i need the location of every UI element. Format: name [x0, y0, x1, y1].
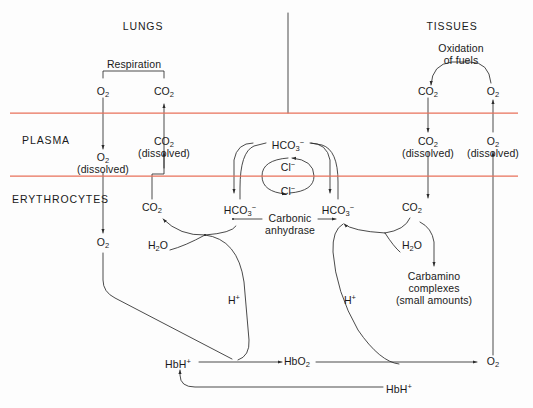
path-junction-to-co2-tissue: [385, 218, 410, 233]
species-co2-tissues: CO2: [418, 86, 438, 101]
arrow-hbh-return-to-left: [180, 370, 383, 387]
species-co2-erythrocyte-tissues: CO2: [402, 202, 422, 217]
respiration-bracket: [103, 71, 164, 78]
arrow-junction-to-co2-lung: [163, 219, 205, 235]
compartment-label-erythrocytes: ERYTHROCYTES: [12, 194, 109, 206]
arrow-hco3-erythrocyte-to-plasma-tissue: [310, 143, 330, 193]
species-hbh-left: HbH+: [165, 356, 191, 371]
path-hco3-tissue-riser: [311, 143, 338, 199]
species-co2-erythrocyte-lungs: CO2: [142, 202, 162, 217]
species-cl-upper: Cl−: [281, 159, 296, 174]
carbamino-label-line3: (small amounts): [396, 294, 472, 306]
species-co2-alveolar-lungs: CO2: [154, 86, 174, 101]
species-hco3-erythrocyte-lungs: HCO3−: [224, 202, 256, 220]
process-label-respiration: Respiration: [107, 59, 161, 71]
compartment-label-lungs: LUNGS: [123, 21, 164, 33]
species-hbh-right: HbH+: [386, 381, 412, 396]
species-cl-lower: Cl−: [281, 183, 296, 198]
path-o2-to-hemoglobin-lung: [103, 253, 232, 359]
process-label-oxidation-line1: Oxidation: [438, 43, 483, 55]
dissolved-label-co2-plasma-tissues: (dissolved): [402, 148, 454, 160]
path-hco3-plasma-to-erythrocyte-lung-a: [240, 143, 266, 199]
arrow-hco3-plasma-into-erythrocyte: [234, 143, 253, 193]
co2-base: CO: [154, 85, 170, 97]
path-junction-to-h2o-tissue: [385, 233, 400, 252]
dissolved-label-co2-plasma-lungs: (dissolved): [138, 148, 190, 160]
path-hco3-into-junction-lung: [205, 226, 236, 235]
co2-sub: 2: [170, 90, 174, 99]
dissolved-label-o2-plasma-lungs: (dissolved): [77, 164, 129, 176]
enzyme-label-carbonic-anhydrase-line2: anhydrase: [265, 225, 315, 237]
species-o2-tissues: O2: [487, 86, 500, 101]
compartment-label-tissues: TISSUES: [426, 21, 477, 33]
species-o2-erythrocyte-tissues: O2: [487, 356, 500, 371]
species-hco3-plasma: HCO3−: [272, 137, 304, 155]
compartment-label-plasma: PLASMA: [22, 135, 70, 147]
carbamino-label-line1: Carbamino: [408, 270, 460, 282]
gas-transport-diagram: LUNGS TISSUES PLASMA ERYTHROCYTES Respir…: [0, 0, 533, 408]
dissolved-label-o2-plasma-tissues: (dissolved): [467, 148, 519, 160]
path-junction-to-h2o-lung: [170, 235, 205, 250]
species-o2-erythrocyte-lungs: O2: [97, 237, 110, 252]
species-hplus-tissues: H+: [344, 292, 356, 307]
o2-sub: 2: [105, 90, 109, 99]
arrow-junction-to-hco3-tissue: [344, 224, 385, 233]
species-o2-alveolar-lungs: O2: [97, 86, 110, 101]
species-h2o-tissues: H2O: [402, 240, 422, 255]
species-hco3-erythrocyte-tissues: HCO3−: [322, 202, 354, 220]
path-hplus-limb-tissue: [333, 224, 399, 364]
carbamino-label-line2: complexes: [408, 282, 459, 294]
species-h2o-lungs: H2O: [148, 240, 168, 255]
species-hplus-lungs: H+: [228, 292, 240, 307]
process-label-oxidation-line2: of fuels: [444, 55, 479, 67]
species-hbo2: HbO2: [284, 356, 310, 371]
enzyme-label-carbonic-anhydrase-line1: Carbonic: [269, 213, 312, 225]
